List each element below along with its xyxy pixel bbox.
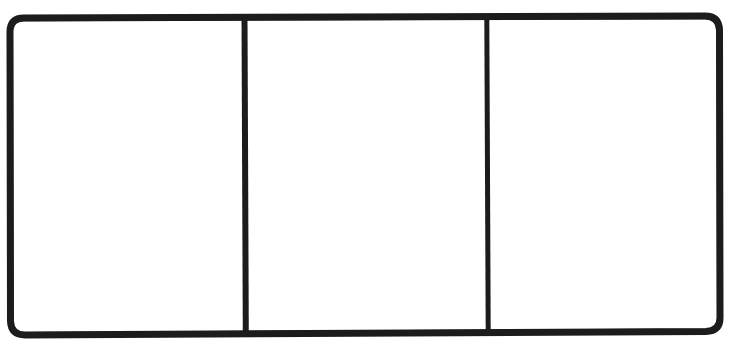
divider-2 — [487, 17, 488, 332]
diagram-canvas — [0, 0, 732, 345]
panel-left[interactable] — [14, 22, 241, 327]
panel-middle[interactable] — [248, 22, 484, 327]
divider-1 — [245, 18, 246, 333]
panel-middle-label — [248, 22, 484, 327]
panel-right-label — [491, 22, 716, 327]
panel-left-label — [14, 22, 241, 327]
panel-right[interactable] — [491, 22, 716, 327]
